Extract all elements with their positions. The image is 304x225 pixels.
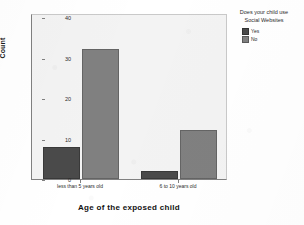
y-tick-label-10: 10 (45, 137, 71, 143)
y-tick-label-20: 20 (45, 96, 71, 102)
bar-yes-group-2 (141, 171, 178, 179)
legend-label-no: No (251, 37, 257, 42)
x-tick-label-2: 6 to 10 years old (128, 183, 228, 189)
bar-yes-group-1 (43, 147, 80, 179)
legend-title-line-1: Does your child use (228, 9, 300, 17)
legend-entry-no: No (242, 36, 302, 43)
y-axis-title: Count (0, 18, 6, 78)
legend-items: YesNo (228, 28, 302, 44)
y-tick-label-40: 40 (45, 15, 71, 21)
legend-swatch-icon-yes (242, 28, 249, 35)
x-tick-label-1: less than 5 years old (30, 183, 130, 189)
bar-no-group-1 (82, 49, 119, 179)
x-tick-mark-1 (80, 180, 81, 183)
legend-swatch-icon-no (242, 36, 249, 43)
legend-title: Does your child use Social Websites (228, 9, 300, 25)
x-tick-mark-2 (178, 180, 179, 183)
bar-no-group-2 (180, 130, 217, 179)
legend-label-yes: Yes (251, 29, 259, 34)
x-axis-title: Age of the exposed child (31, 203, 227, 212)
legend-entry-yes: Yes (242, 28, 302, 35)
legend-title-line-2: Social Websites (228, 17, 300, 25)
y-tick-label-30: 30 (45, 56, 71, 62)
chart-legend: Does your child use Social Websites YesN… (228, 9, 302, 45)
